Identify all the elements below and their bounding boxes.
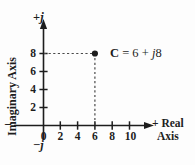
y-tick-label-6: 6 (22, 66, 36, 78)
negative-imaginary-axis-label: −j (33, 139, 44, 152)
x-tick-label-2: 2 (57, 131, 63, 143)
real-axis-title-line2: Axis (152, 130, 184, 143)
negative-j-letter: j (40, 138, 43, 152)
y-tick-label-4: 4 (22, 84, 36, 96)
positive-imaginary-axis-label: +j (33, 11, 44, 24)
x-tick-label-6: 6 (92, 131, 98, 143)
point-imag-part: 8 (155, 46, 161, 60)
real-axis-title: + Real Axis (152, 117, 184, 143)
y-tick-label-2: 2 (22, 102, 36, 114)
x-tick-label-8: 8 (109, 131, 115, 143)
data-point-marker (92, 50, 98, 56)
point-plus-sign: + (142, 46, 149, 60)
complex-plane-figure: 0 2 4 6 8 10 2 4 6 8 +j −j − Imaginary A… (0, 0, 195, 165)
positive-j-letter: j (40, 10, 43, 24)
point-symbol: C (110, 46, 119, 60)
imaginary-axis-title: Imaginary Axis (6, 57, 18, 136)
x-tick-label-4: 4 (75, 131, 81, 143)
x-tick-label-10: 10 (125, 131, 137, 143)
y-tick-label-8: 8 (22, 48, 36, 60)
data-point-label: C = 6 + j8 (110, 47, 162, 60)
real-axis-title-line1: + Real (152, 117, 184, 130)
